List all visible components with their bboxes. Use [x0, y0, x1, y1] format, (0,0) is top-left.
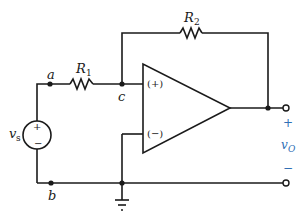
ground-node-dot: [119, 180, 124, 185]
svg-text:2: 2: [194, 17, 200, 27]
output-terminal-minus: [283, 180, 289, 186]
output-minus-sign: −: [283, 161, 293, 175]
svg-text:(+): (+): [147, 78, 163, 89]
node-c-dot: [119, 81, 124, 86]
voltage-source: + −: [23, 121, 51, 183]
svg-text:(−): (−): [147, 128, 163, 139]
svg-text:−: −: [34, 138, 42, 149]
output-plus-sign: +: [283, 116, 293, 130]
r2-label: R: [183, 10, 194, 25]
node-c-label: c: [118, 89, 126, 104]
output-terminal-plus: [283, 105, 289, 111]
output-node-dot: [265, 105, 270, 110]
output-label: v: [281, 138, 288, 152]
svg-text:O: O: [288, 144, 296, 154]
svg-text:1: 1: [86, 68, 92, 78]
node-a-dot: [47, 81, 52, 86]
ground-path: [37, 180, 289, 186]
r1-label: R: [75, 61, 86, 76]
ground-icon: [115, 183, 129, 210]
node-b-dot: [48, 180, 53, 185]
svg-text:s: s: [16, 133, 21, 143]
resistor-r1: [70, 79, 93, 89]
feedback-path: [122, 28, 268, 108]
node-a-label: a: [47, 67, 55, 82]
input-path: [37, 79, 143, 121]
op-amp: (+) (−): [122, 64, 230, 183]
circuit-diagram: + − (+) (−) a c b R 1 R 2 v s + v: [0, 0, 299, 220]
output-path: [230, 105, 289, 111]
node-b-label: b: [48, 188, 56, 203]
resistor-r2: [180, 28, 202, 38]
svg-text:+: +: [33, 121, 41, 132]
